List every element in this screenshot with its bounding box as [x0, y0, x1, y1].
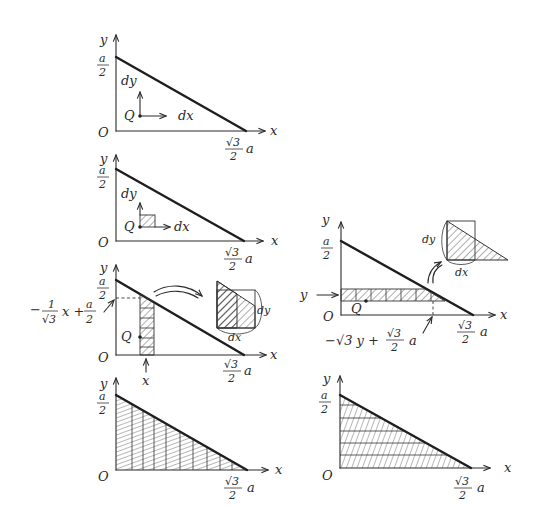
integration-diagram: y x O a 2 √3 2 a Q dx dy y x O a 2: [0, 0, 538, 526]
x-axis-label: x: [504, 460, 512, 475]
dy-label: dy: [121, 186, 137, 201]
x-intercept-label: √3 2 a: [454, 475, 485, 502]
point-q-label: Q: [124, 108, 135, 123]
origin-label: O: [98, 350, 109, 365]
svg-text:x +: x +: [62, 304, 84, 319]
svg-text:√3: √3: [42, 313, 56, 326]
svg-text:a: a: [99, 164, 106, 177]
y-intercept-label: a 2: [97, 390, 109, 417]
svg-text:2: 2: [98, 289, 106, 302]
svg-text:a: a: [323, 235, 330, 248]
panel-vertical-strip: y x O a 2 √3 2 a Q x −: [30, 260, 278, 388]
origin-label: O: [323, 309, 334, 324]
svg-text:2: 2: [227, 372, 235, 385]
svg-text:2: 2: [85, 313, 93, 326]
point-q-dot: [138, 335, 142, 339]
y-intercept-label: a 2: [97, 164, 109, 191]
svg-text:√3: √3: [224, 358, 238, 371]
svg-text:a: a: [99, 390, 106, 403]
x-axis-label: x: [271, 233, 279, 248]
right-bound-expression: −√3 y + √3 2 a: [325, 327, 417, 354]
panel-horizontal-strip: y x O a 2 √3 2 a Q y −√3 y +: [299, 212, 508, 354]
svg-text:a: a: [86, 298, 93, 311]
point-q-label: Q: [351, 301, 362, 316]
svg-text:−√3 y +: −√3 y +: [325, 333, 379, 348]
svg-text:a: a: [321, 389, 328, 402]
strip-position-label: y: [299, 287, 308, 302]
svg-text:√3: √3: [455, 475, 469, 488]
origin-label: O: [98, 235, 109, 250]
svg-text:2: 2: [98, 404, 106, 417]
origin-label: O: [98, 469, 109, 484]
svg-text:dx: dx: [455, 266, 469, 279]
y-intercept-label: a 2: [97, 52, 109, 79]
svg-text:√3: √3: [387, 327, 401, 340]
svg-text:a: a: [409, 333, 417, 348]
x-intercept-label: √3 2 a: [225, 136, 254, 163]
y-axis-label: y: [321, 212, 330, 227]
inset-horizontal-element: dy dx: [422, 221, 508, 279]
svg-text:2: 2: [98, 178, 106, 191]
svg-text:2: 2: [322, 249, 330, 262]
point-q-label: Q: [124, 219, 135, 234]
upper-bound-expression: − 1 √3 x + a 2: [30, 298, 96, 326]
svg-text:√3: √3: [226, 136, 240, 149]
dx-label: dx: [174, 219, 190, 234]
x-axis-label: x: [500, 307, 508, 322]
zoom-arrow-outline: [156, 291, 198, 298]
svg-text:−: −: [30, 302, 41, 317]
panel-vertical-sum: y x O a 2 √3 2 a: [97, 376, 283, 502]
x-axis-label: x: [270, 347, 278, 362]
svg-text:dy: dy: [422, 233, 436, 246]
svg-text:2: 2: [458, 489, 466, 502]
svg-text:1: 1: [48, 298, 55, 311]
y-axis-label: y: [322, 371, 331, 386]
svg-text:2: 2: [461, 333, 469, 346]
y-axis-label: y: [99, 260, 108, 275]
origin-label: O: [98, 125, 109, 140]
x-intercept-label: √3 2 a: [224, 246, 253, 273]
x-axis-label: x: [270, 123, 278, 138]
svg-text:a: a: [246, 141, 254, 156]
svg-text:√3: √3: [225, 475, 239, 488]
x-intercept-label: √3 2 a: [223, 358, 252, 385]
y-intercept-label: a 2: [321, 235, 333, 262]
panel-area-element: y x O a 2 √3 2 a Q dx dy: [97, 151, 279, 273]
svg-text:a: a: [477, 480, 485, 495]
svg-text:2: 2: [320, 403, 328, 416]
svg-text:a: a: [245, 251, 253, 266]
dx-label: dx: [178, 108, 194, 123]
x-intercept-label: √3 2 a: [224, 475, 255, 502]
point-q-label: Q: [121, 329, 132, 344]
svg-text:√3: √3: [225, 246, 239, 259]
y-intercept-label: a 2: [97, 275, 109, 302]
svg-text:√3: √3: [458, 319, 472, 332]
svg-text:2: 2: [228, 260, 236, 273]
svg-text:2: 2: [229, 150, 237, 163]
svg-text:dy: dy: [257, 304, 271, 317]
svg-text:dx: dx: [228, 331, 242, 344]
dy-label: dy: [121, 73, 137, 88]
right-bound-pointer: [423, 317, 432, 333]
svg-text:a: a: [99, 275, 106, 288]
svg-text:a: a: [99, 52, 106, 65]
svg-text:2: 2: [390, 341, 398, 354]
y-axis-label: y: [99, 376, 108, 391]
origin-label: O: [322, 468, 333, 483]
svg-text:2: 2: [98, 66, 106, 79]
svg-text:a: a: [480, 324, 488, 339]
vertical-strip: [140, 294, 154, 355]
panel-horizontal-sum: y x O a 2 √3 2 a: [319, 371, 512, 502]
svg-text:2: 2: [228, 489, 236, 502]
point-q-dot: [138, 225, 142, 229]
panel-point-element: y x O a 2 √3 2 a Q dx dy: [97, 32, 278, 163]
area-element-dxdy: [140, 215, 155, 227]
point-q-dot: [364, 299, 368, 303]
y-intercept-label: a 2: [319, 389, 331, 416]
svg-text:a: a: [244, 363, 252, 378]
y-axis-label: y: [99, 32, 108, 47]
svg-text:a: a: [247, 480, 255, 495]
x-intercept-label: √3 2 a: [457, 319, 488, 346]
strip-position-label: x: [142, 373, 150, 388]
inset-vertical-element: dy dx: [217, 281, 271, 344]
